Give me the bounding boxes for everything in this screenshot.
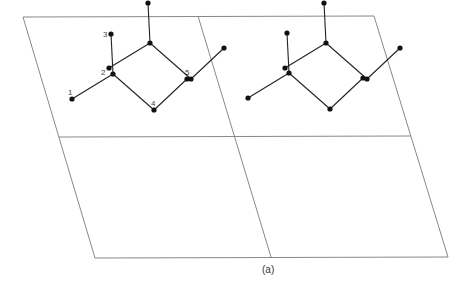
- atom-2: [110, 71, 115, 76]
- molecule-1: 12345: [68, 30, 190, 113]
- atom-3: [321, 0, 326, 5]
- bond: [109, 43, 150, 68]
- lattice-lines: [23, 16, 448, 258]
- lattice-diagram: 12345: [0, 0, 470, 292]
- bond: [324, 3, 326, 43]
- bond: [113, 74, 154, 110]
- atom-label-4: 4: [151, 99, 156, 108]
- bond: [150, 43, 191, 79]
- bond: [285, 43, 326, 68]
- atom-4: [151, 107, 156, 112]
- atom-2: [286, 70, 291, 75]
- bond: [154, 79, 187, 110]
- atom-4: [364, 76, 369, 81]
- atom-3: [284, 30, 289, 35]
- atom-3: [145, 0, 150, 5]
- atom-1: [106, 65, 111, 70]
- molecule-2: [245, 30, 365, 111]
- bond: [326, 43, 367, 79]
- bond: [248, 73, 289, 98]
- bond: [289, 73, 330, 109]
- bond: [367, 48, 400, 79]
- atom-1: [245, 95, 250, 100]
- bond: [148, 3, 150, 43]
- figure-caption: (a): [262, 264, 274, 275]
- atom-2: [323, 40, 328, 45]
- atom-label-1: 1: [68, 88, 73, 97]
- bond: [72, 74, 113, 99]
- atom-4: [188, 76, 193, 81]
- molecule-4: [282, 0, 402, 81]
- bond: [191, 48, 224, 79]
- atom-1: [69, 96, 74, 101]
- atom-5: [221, 45, 226, 50]
- atom-label-2: 2: [101, 68, 106, 77]
- bond: [330, 78, 363, 109]
- atom-2: [147, 40, 152, 45]
- molecules: 12345: [68, 0, 403, 112]
- atom-1: [282, 65, 287, 70]
- atom-3: [108, 31, 113, 36]
- atom-label-3: 3: [103, 30, 108, 39]
- atom-4: [327, 106, 332, 111]
- molecule-3: [106, 0, 226, 81]
- atom-5: [397, 45, 402, 50]
